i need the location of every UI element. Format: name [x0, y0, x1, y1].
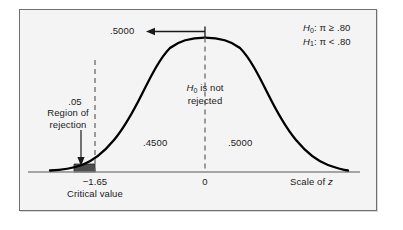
figure-container: H0: π ≥ .80 H1: π < .80 .5000 .05 Region… — [0, 0, 403, 230]
null-hypothesis-line: H0: π ≥ .80 — [303, 22, 351, 36]
area-right-half-label: .5000 — [228, 137, 252, 148]
h0-not-rejected-label: H0 is not rejected — [165, 82, 245, 106]
area-between-label: .4500 — [143, 137, 167, 148]
x-axis-title-prefix: Scale of — [290, 176, 328, 187]
h0-not-rejected-line-1: H0 is not — [165, 82, 245, 95]
alpha-label: .05 — [47, 96, 103, 107]
area-left-half-label: .5000 — [110, 25, 134, 36]
critical-value-caption: Critical value — [47, 188, 143, 199]
rejection-region-arrow — [77, 130, 84, 166]
region-of-rejection-line-1: Region of — [33, 107, 103, 119]
hypotheses-block: H0: π ≥ .80 H1: π < .80 — [303, 22, 351, 49]
alternative-hypothesis-statement: : π < .80 — [314, 36, 351, 47]
null-hypothesis-subscript: 0 — [310, 27, 314, 34]
h0-subscript: 0 — [193, 87, 197, 94]
critical-value-tick-label: −1.65 — [57, 176, 133, 187]
x-axis-title: Scale of z — [290, 176, 333, 187]
h0-not-rejected-text-1: is not — [200, 82, 223, 93]
null-hypothesis-statement: : π ≥ .80 — [314, 22, 350, 33]
region-of-rejection-label: Region of rejection — [33, 107, 103, 130]
alternative-hypothesis-symbol: H — [303, 36, 310, 47]
region-of-rejection-line-2: rejection — [33, 119, 103, 131]
alternative-hypothesis-line: H1: π < .80 — [303, 36, 351, 50]
area-left-arrow — [146, 27, 205, 38]
alternative-hypothesis-subscript: 1 — [310, 40, 314, 47]
x-axis-title-variable: z — [328, 176, 333, 187]
h0-not-rejected-line-2: rejected — [165, 95, 245, 107]
null-hypothesis-symbol: H — [303, 22, 310, 33]
zero-tick-label: 0 — [185, 176, 225, 187]
